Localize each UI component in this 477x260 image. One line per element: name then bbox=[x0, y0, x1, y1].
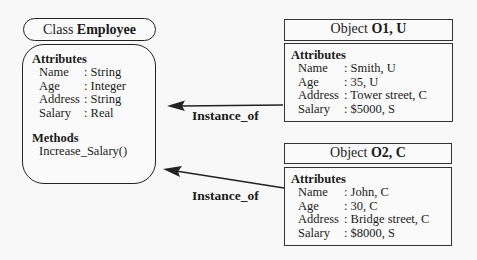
class-title-name: Employee bbox=[77, 22, 136, 37]
attribute-value: : John, C bbox=[344, 186, 389, 199]
attribute-name: Salary bbox=[39, 107, 84, 120]
class-methods: Methods Increase_Salary() bbox=[32, 132, 155, 159]
attribute-type: : Integer bbox=[84, 80, 126, 93]
object-title-name: O2, C bbox=[371, 145, 406, 160]
attribute-name: Name bbox=[298, 62, 344, 75]
attribute-value: : 30, C bbox=[344, 200, 378, 213]
object-attribute-row: Address : Tower street, C bbox=[291, 89, 452, 102]
attribute-name: Address bbox=[298, 213, 344, 226]
object-o2-body: Attributes Name : John, C Age : 30, C Ad… bbox=[284, 167, 452, 246]
class-title-prefix: Class bbox=[43, 22, 77, 37]
object-attribute-row: Salary : $8000, S bbox=[291, 227, 451, 240]
object-attribute-row: Name : Smith, U bbox=[291, 62, 452, 75]
attribute-name: Name bbox=[298, 186, 344, 199]
class-methods-heading: Methods bbox=[32, 132, 155, 145]
attribute-name: Age bbox=[298, 76, 344, 89]
object-o1-title: Object O1, U bbox=[284, 19, 453, 41]
class-attribute-row: Salary : Real bbox=[32, 107, 155, 120]
object-attributes-heading: Attributes bbox=[291, 49, 452, 62]
object-attributes-heading: Attributes bbox=[291, 173, 451, 186]
object-title-prefix: Object bbox=[330, 145, 371, 160]
class-employee-title: Class Employee bbox=[23, 18, 156, 41]
attribute-name: Salary bbox=[298, 103, 344, 116]
class-attribute-row: Address : String bbox=[32, 93, 155, 106]
attribute-value: : Smith, U bbox=[344, 62, 396, 75]
edge-label-instance-of: Instance_of bbox=[192, 108, 259, 124]
attribute-name: Address bbox=[298, 89, 344, 102]
object-attribute-row: Age : 30, C bbox=[291, 200, 451, 213]
method-item: Increase_Salary() bbox=[32, 145, 155, 158]
object-attribute-row: Age : 35, U bbox=[291, 76, 452, 89]
attribute-value: : Bridge street, C bbox=[344, 213, 429, 226]
class-attribute-row: Age : Integer bbox=[32, 80, 155, 93]
object-attribute-row: Name : John, C bbox=[291, 186, 451, 199]
attribute-value: : 35, U bbox=[344, 76, 378, 89]
object-o1-body: Attributes Name : Smith, U Age : 35, U A… bbox=[284, 43, 453, 122]
attribute-type: : Real bbox=[84, 107, 114, 120]
attribute-name: Address bbox=[39, 93, 84, 106]
attribute-name: Salary bbox=[298, 227, 344, 240]
object-title-prefix: Object bbox=[331, 21, 372, 36]
object-attribute-row: Address : Bridge street, C bbox=[291, 213, 451, 226]
class-attribute-row: Name : String bbox=[32, 66, 155, 79]
object-o2-title: Object O2, C bbox=[284, 143, 452, 164]
instance-of-arrow-2 bbox=[163, 166, 284, 188]
attribute-name: Name bbox=[39, 66, 84, 79]
object-attribute-row: Salary : $5000, S bbox=[291, 103, 452, 116]
edge-label-instance-of: Instance_of bbox=[192, 188, 259, 204]
attribute-type: : String bbox=[84, 66, 121, 79]
object-title-name: O1, U bbox=[371, 21, 406, 36]
attribute-name: Age bbox=[39, 80, 84, 93]
attribute-value: : $8000, S bbox=[344, 227, 395, 240]
attribute-type: : String bbox=[84, 93, 121, 106]
attribute-value: : Tower street, C bbox=[344, 89, 427, 102]
attribute-name: Age bbox=[298, 200, 344, 213]
class-employee-body: Attributes Name : String Age : Integer A… bbox=[22, 44, 156, 184]
attribute-value: : $5000, S bbox=[344, 103, 395, 116]
class-attributes-heading: Attributes bbox=[32, 53, 155, 66]
